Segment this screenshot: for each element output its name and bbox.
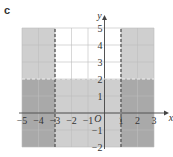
y-axis-label: y [96,10,102,21]
x-tick-label: 2 [135,115,140,126]
inequality-chart: −5−4−3−2−1123−2−112345Oxy [0,0,173,157]
x-tick-label: 3 [152,115,157,126]
y-tick-label: −2 [92,142,103,153]
x-tick-label: −4 [33,115,44,126]
x-tick-label: −3 [50,115,61,126]
x-tick-label: −2 [66,115,77,126]
y-tick-label: 3 [98,57,103,68]
x-axis-label: x [168,112,173,123]
x-tick-label: 1 [119,115,124,126]
y-tick-label: 5 [98,23,103,34]
y-tick-label: 4 [98,40,103,51]
y-tick-label: −1 [92,125,103,136]
y-tick-label: 2 [98,74,103,85]
y-tick-label: 1 [98,91,103,102]
x-tick-label: −5 [17,115,28,126]
y-axis-arrow-icon [102,15,107,20]
origin-label: O [94,113,101,124]
